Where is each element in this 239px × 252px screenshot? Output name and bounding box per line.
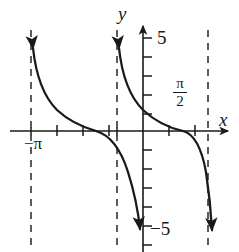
y-axis-label: y xyxy=(118,4,126,23)
x-tick-label-neg-pi: −π xyxy=(24,135,42,152)
curve-branch-left-lower xyxy=(96,131,140,229)
x-tick-label-pi-over-2: π 2 xyxy=(171,76,189,109)
curve-branch-left xyxy=(33,48,96,131)
fraction-numerator: π xyxy=(171,76,189,92)
asymptotes-group xyxy=(31,30,208,250)
y-tick-label-5: 5 xyxy=(157,28,167,47)
y-tick-label-neg5: −5 xyxy=(150,219,170,238)
y-axis-ticks xyxy=(143,38,152,245)
x-axis-label: x xyxy=(219,110,227,129)
fraction-denominator: 2 xyxy=(171,93,189,109)
graph-canvas xyxy=(0,0,239,252)
